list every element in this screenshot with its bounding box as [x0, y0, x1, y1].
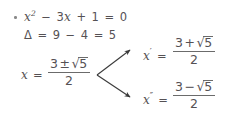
second-root-variable: x: [143, 93, 150, 107]
equation-plus-operator: +: [75, 10, 88, 24]
combined-root-prefix: x =: [21, 68, 44, 82]
equation-coefficient: 3: [57, 10, 65, 24]
arrow-to-second-root: [97, 75, 130, 97]
discriminant-equals-sign-2: =: [92, 28, 105, 42]
equation-variable: x: [24, 10, 31, 24]
math-notes-canvas: x2 − 3x + 1 = 0 Δ = 9 − 4 = 5 x = 3±√5 2: [0, 0, 230, 118]
first-root-radicand: 5: [203, 36, 213, 50]
equation-constant: 1: [92, 10, 100, 24]
combined-root-radicand: 5: [78, 57, 88, 71]
equation-right-hand-side: 0: [120, 10, 128, 24]
equation-equals-sign: =: [103, 10, 116, 24]
quadratic-equation-line: x2 − 3x + 1 = 0: [24, 10, 127, 23]
first-root-fraction: 3+√5 2: [173, 36, 215, 67]
equation-minus-operator: −: [40, 10, 53, 24]
combined-root-equals-sign: =: [31, 68, 44, 82]
second-root-prefix: x″ =: [143, 91, 169, 107]
first-root-numerator: 3+√5: [173, 36, 215, 51]
discriminant-symbol: Δ: [24, 28, 32, 42]
discriminant-minus-operator: −: [64, 28, 77, 42]
first-root-operator: +: [183, 35, 196, 50]
bullet-point-icon: [14, 16, 17, 19]
first-root-numerator-lead: 3: [175, 35, 183, 50]
first-root-prefix: x′ =: [143, 47, 168, 63]
second-root-numerator: 3−√5: [173, 80, 215, 95]
second-root-equals-sign: =: [157, 93, 170, 107]
combined-root-variable: x: [21, 68, 28, 82]
equation-linear-variable: x: [64, 10, 71, 24]
combined-root-fraction: 3±√5 2: [48, 57, 90, 88]
combined-root-numerator: 3±√5: [48, 57, 90, 72]
second-root-operator: −: [183, 79, 196, 94]
second-root-radicand: 5: [203, 80, 213, 94]
second-root-radical: √5: [196, 80, 213, 94]
combined-root-radical: √5: [71, 57, 88, 71]
combined-root-numerator-lead: 3: [50, 56, 58, 71]
equation-exponent: 2: [31, 9, 36, 18]
discriminant-result: 5: [109, 28, 117, 42]
discriminant-line: Δ = 9 − 4 = 5: [24, 30, 116, 42]
first-root-variable: x: [143, 49, 150, 63]
first-root-denominator: 2: [188, 52, 200, 67]
second-root-fraction: 3−√5 2: [173, 80, 215, 111]
discriminant-equals-sign: =: [36, 28, 49, 42]
discriminant-first-value: 9: [53, 28, 61, 42]
first-root-prime-mark: ′: [150, 47, 152, 57]
plus-minus-sign: ±: [58, 56, 71, 71]
combined-root-denominator: 2: [63, 73, 75, 88]
first-root-equals-sign: =: [155, 49, 168, 63]
second-root-denominator: 2: [188, 96, 200, 111]
arrow-to-first-root: [97, 50, 130, 75]
discriminant-second-value: 4: [81, 28, 89, 42]
second-root-double-prime-mark: ″: [150, 91, 153, 101]
first-root-radical: √5: [196, 36, 213, 50]
second-root-numerator-lead: 3: [175, 79, 183, 94]
